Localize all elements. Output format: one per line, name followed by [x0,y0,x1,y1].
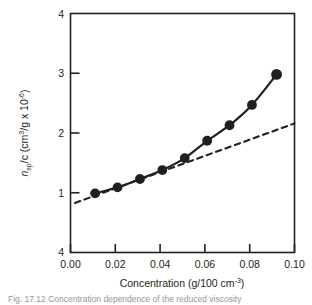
x-axis-title: Concentration (g/100 cm-3) [120,277,245,289]
data-point-marker [157,165,167,175]
x-tick-label-0: 0.00 [60,258,81,270]
data-point-marker [247,100,257,110]
x-tick-label-1: 0.02 [105,258,126,270]
y-axis-title-tail: ) [18,90,30,94]
y-tick-label-1: 1 [58,187,64,199]
y-axis-title: nsp/c (cm3/g x 10-6) [18,90,33,177]
figure-caption-text: Fig. 17.12 Concentration dependence of t… [0,293,312,305]
x-tick-label-3: 0.06 [195,258,216,270]
chart-canvas: 4 3 2 1 4 0.00 0.02 0.04 0.06 0.08 0.10 … [0,0,312,305]
y-tick-label-3: 3 [58,67,64,79]
y-tick-label-2: 2 [58,127,64,139]
x-tick-label-4: 0.08 [239,258,260,270]
y-axis-title-mid-2: /g x 10 [18,99,30,131]
y-axis-title-mid: /c (cm [18,134,30,163]
data-point-marker [225,120,235,130]
plot-frame [71,14,295,253]
x-axis-title-tail: ) [241,277,245,289]
data-point-marker [271,69,282,80]
y-tick-label-4-top: 4 [58,8,64,20]
y-axis-title-subscript: sp [25,163,33,171]
x-axis-title-main: Concentration (g/100 cm [120,277,235,289]
x-tick-label-2: 0.04 [150,258,171,270]
x-tick-label-5: 0.10 [284,258,305,270]
figure-caption: Fig. 17.12 Concentration dependence of t… [0,293,312,305]
y-tick-label-4-bottom: 4 [58,246,64,258]
data-point-marker [202,136,212,146]
figure-panel: 4 3 2 1 4 0.00 0.02 0.04 0.06 0.08 0.10 … [0,0,312,305]
